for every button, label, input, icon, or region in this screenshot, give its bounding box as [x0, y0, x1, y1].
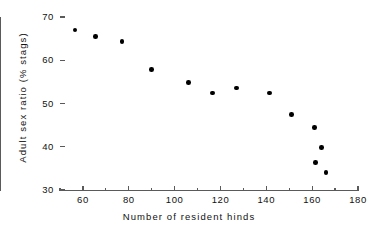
x-tick-label: 140 [246, 194, 286, 205]
x-tick [220, 186, 221, 191]
y-tick [60, 189, 65, 190]
x-tick-minor [243, 188, 244, 191]
data-point [289, 112, 294, 117]
data-point [324, 170, 329, 175]
data-point [312, 125, 317, 130]
x-tick [312, 186, 313, 191]
data-point [313, 160, 318, 165]
data-point [149, 67, 154, 72]
x-tick-label: 80 [109, 194, 149, 205]
y-axis-line [0, 17, 1, 191]
y-tick [60, 16, 65, 17]
y-axis-title: Adult sex ratio (% stags) [17, 3, 28, 193]
x-tick-minor [289, 188, 290, 191]
data-point [210, 91, 215, 96]
x-tick [128, 186, 129, 191]
x-tick-label: 120 [200, 194, 240, 205]
x-tick [357, 186, 358, 191]
x-tick-minor [59, 188, 60, 191]
x-tick-label: 160 [292, 194, 332, 205]
x-tick-minor [151, 188, 152, 191]
x-tick [174, 186, 175, 191]
x-axis-title: Number of resident hinds [0, 211, 378, 222]
x-tick-label: 100 [155, 194, 195, 205]
x-tick [266, 186, 267, 191]
data-point [319, 145, 324, 150]
x-tick-minor [334, 188, 335, 191]
y-tick [60, 146, 65, 147]
y-tick [60, 60, 65, 61]
data-point [93, 34, 98, 39]
x-tick-minor [197, 188, 198, 191]
x-tick [82, 186, 83, 191]
x-tick-label: 180 [338, 194, 378, 205]
x-tick-minor [105, 188, 106, 191]
y-tick [60, 103, 65, 104]
data-point [234, 86, 239, 91]
x-tick-label: 60 [63, 194, 103, 205]
data-point [120, 39, 125, 44]
data-point [186, 80, 191, 85]
scatter-plot-figure: 3040506070 6080100120140160180 Number of… [0, 0, 378, 235]
